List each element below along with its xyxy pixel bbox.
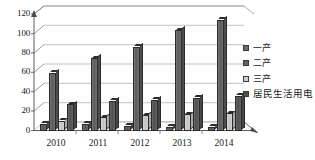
bar-2011-yichan[interactable]: [82, 124, 89, 131]
bar-2011-sanchan[interactable]: [100, 117, 107, 131]
legend-item-sanchan[interactable]: 三产: [243, 73, 315, 84]
bar-2013-yichan[interactable]: [166, 127, 173, 131]
x-axis-labels: 2010 2011 2012 2013 2014: [30, 138, 245, 156]
bar-group-2012: [124, 130, 164, 131]
x-tick-2010: 2010: [36, 138, 76, 149]
legend-label-sanchan: 三产: [253, 74, 271, 84]
legend-item-jumin[interactable]: 居民生活用电: [243, 89, 315, 100]
bar-2010-yichan[interactable]: [40, 124, 47, 131]
bar-2010-sanchan[interactable]: [58, 121, 65, 131]
bar-2013-erchan[interactable]: [175, 30, 182, 131]
chart-container: 120 100 80 60 40 20 0: [0, 0, 315, 160]
bar-2011-jumin[interactable]: [109, 101, 116, 131]
x-tick-2013: 2013: [162, 138, 202, 149]
legend-swatch-icon-sanchan: [243, 76, 249, 82]
bar-2012-erchan[interactable]: [133, 47, 140, 131]
x-tick-2012: 2012: [120, 138, 160, 149]
bar-2014-jumin[interactable]: [235, 96, 242, 131]
legend-item-yichan[interactable]: 一产: [243, 42, 315, 53]
bar-2012-jumin[interactable]: [151, 100, 158, 131]
bar-2012-sanchan[interactable]: [142, 115, 149, 131]
legend-swatch-icon-erchan: [243, 60, 249, 66]
legend-label-yichan: 一产: [253, 43, 271, 53]
chart-legend: 一产 二产 三产 居民生活用电: [243, 42, 315, 104]
bar-group-2014: [208, 130, 248, 131]
legend-swatch-icon-jumin: [243, 91, 249, 97]
x-tick-2011: 2011: [78, 138, 118, 149]
bar-2014-erchan[interactable]: [217, 20, 224, 131]
bar-2010-erchan[interactable]: [49, 73, 56, 131]
bar-2013-jumin[interactable]: [193, 98, 200, 131]
legend-label-jumin: 居民生活用电: [253, 89, 313, 99]
bar-group-2010: [40, 130, 80, 131]
bar-2011-erchan[interactable]: [91, 58, 98, 131]
legend-item-erchan[interactable]: 二产: [243, 58, 315, 69]
legend-swatch-icon-yichan: [243, 45, 249, 51]
bar-2014-sanchan[interactable]: [226, 113, 233, 130]
bar-2010-jumin[interactable]: [67, 104, 74, 130]
bar-2012-yichan[interactable]: [124, 126, 131, 131]
x-tick-2014: 2014: [204, 138, 244, 149]
bar-2014-yichan[interactable]: [208, 127, 215, 131]
legend-label-erchan: 二产: [253, 58, 271, 68]
bar-2013-sanchan[interactable]: [184, 114, 191, 130]
bar-group-2013: [166, 130, 206, 131]
bar-group-2011: [82, 130, 122, 131]
